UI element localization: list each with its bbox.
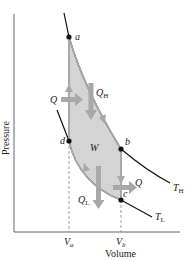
label-q-right: Q — [135, 177, 143, 188]
point-a — [66, 34, 71, 39]
label-q-left: Q — [50, 94, 58, 105]
label-ql: QL — [78, 194, 90, 207]
y-axis-label: Pressure — [0, 121, 11, 155]
qh-arrow-shaft — [89, 83, 94, 110]
ql-arrowhead-icon — [93, 200, 105, 209]
ql-arrow-shaft — [96, 166, 101, 200]
q-left-arrow-shaft — [61, 97, 75, 102]
label-th: TH — [173, 182, 184, 195]
point-d — [66, 138, 71, 143]
label-d: d — [60, 135, 66, 146]
point-b — [118, 146, 123, 151]
label-tl: TL — [155, 211, 165, 224]
label-a: a — [75, 31, 80, 42]
tick-va: Va — [64, 236, 74, 249]
pv-diagram: a b c d W Q QH QL Q TH TL Va Vb Volume P… — [0, 0, 191, 260]
label-qh: QH — [96, 87, 108, 100]
label-c: c — [123, 188, 128, 199]
label-b: b — [125, 136, 130, 147]
x-axis-label: Volume — [105, 248, 136, 259]
